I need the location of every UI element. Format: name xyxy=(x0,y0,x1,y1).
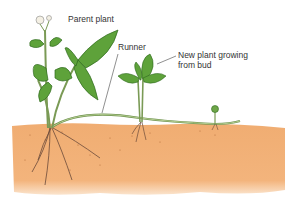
runner-leader-line xyxy=(102,54,118,113)
parent-plant-flower xyxy=(36,16,52,33)
label-parent-plant: Parent plant xyxy=(68,14,114,24)
label-new-plant-line2: from bud xyxy=(178,60,212,70)
diagram-illustration xyxy=(0,0,293,202)
diagram-canvas: Parent plant Runner New plant growing fr… xyxy=(0,0,293,202)
soil xyxy=(12,123,285,194)
new-plant-leader-line xyxy=(157,56,176,64)
label-runner: Runner xyxy=(118,42,146,52)
label-new-plant-line1: New plant growing xyxy=(178,50,248,60)
